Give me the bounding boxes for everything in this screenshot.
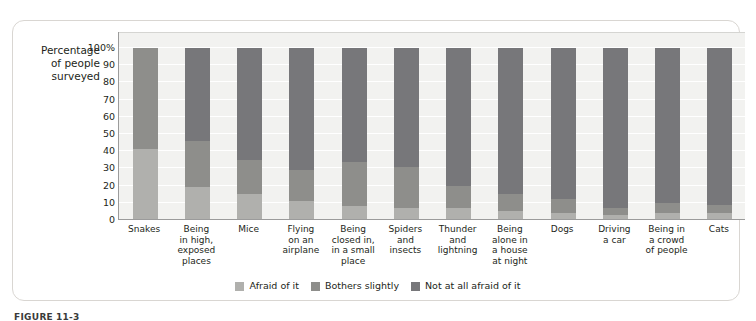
bar-segment	[394, 167, 419, 208]
x-axis-category-labels: SnakesBeingin high,exposedplacesMiceFlyi…	[118, 224, 745, 276]
y-tick-label: 70	[78, 95, 115, 105]
bar-segment	[237, 160, 262, 194]
y-tick-label: 30	[78, 163, 115, 173]
x-category-label-line: at night	[484, 256, 536, 267]
figure-caption: FIGURE 11-3	[14, 312, 80, 321]
bar-segment	[394, 48, 419, 167]
legend-item[interactable]: Afraid of it	[235, 281, 298, 291]
x-category-label: Dogs	[536, 224, 588, 235]
bar-segment	[707, 48, 732, 205]
x-category-label-line: Dogs	[536, 224, 588, 235]
x-category-label: Flyingon anairplane	[275, 224, 327, 256]
x-category-label-line: Spiders	[379, 224, 431, 235]
x-category-label-line: Flying	[275, 224, 327, 235]
bar-segment	[342, 48, 367, 162]
bar-segment	[342, 162, 367, 207]
x-category-label: Snakes	[118, 224, 170, 235]
bar-segment	[655, 48, 680, 203]
y-tick-label: 20	[78, 181, 115, 191]
bar-segment	[498, 194, 523, 211]
y-tick-label: 10	[78, 198, 115, 208]
x-category-label: Beingalone ina houseat night	[484, 224, 536, 266]
bar-segment	[289, 170, 314, 201]
x-category-label-line: Snakes	[118, 224, 170, 235]
x-category-label-line: and	[432, 235, 484, 246]
y-tick-label: 50	[78, 129, 115, 139]
x-category-label-line: a car	[588, 235, 640, 246]
x-category-label-line: Driving	[588, 224, 640, 235]
x-category-label-line: lightning	[432, 245, 484, 256]
bar-segment	[237, 194, 262, 220]
figure-caption-number: 11-3	[56, 312, 80, 321]
bar-segment	[185, 141, 210, 187]
x-category-label-line: places	[170, 256, 222, 267]
y-tick-label: 0	[78, 215, 115, 225]
x-category-label-line: Cats	[693, 224, 745, 235]
legend-item[interactable]: Bothers slightly	[311, 281, 399, 291]
bar-column	[342, 48, 367, 220]
bar-segment	[237, 48, 262, 160]
x-category-label: Beingclosed in,in a smallplace	[327, 224, 379, 266]
x-category-label-line: Being	[484, 224, 536, 235]
x-category-label-line: on an	[275, 235, 327, 246]
bar-segment	[707, 205, 732, 214]
bar-segment	[655, 203, 680, 213]
x-category-label-line: airplane	[275, 245, 327, 256]
bar-segment	[551, 199, 576, 213]
bar-segment	[498, 48, 523, 194]
y-tick-label: 80	[78, 77, 115, 87]
bar-segment	[185, 187, 210, 220]
legend-swatch	[235, 282, 244, 291]
bar-column	[655, 48, 680, 220]
x-category-label-line: Being	[170, 224, 222, 235]
legend-label: Not at all afraid of it	[425, 281, 520, 291]
legend-swatch	[411, 282, 420, 291]
x-category-label-line: Mice	[223, 224, 275, 235]
x-category-label-line: in a small	[327, 245, 379, 256]
bar-column	[707, 48, 732, 220]
plot-area	[118, 32, 745, 220]
bar-segment	[133, 149, 158, 220]
x-category-label-line: place	[327, 256, 379, 267]
y-axis-tick-labels: 0102030405060708090100%	[78, 40, 115, 225]
x-category-label-line: in high,	[170, 235, 222, 246]
bar-segment	[133, 48, 158, 149]
x-axis-line	[119, 219, 745, 220]
x-category-label-line: insects	[379, 245, 431, 256]
bar-segment	[185, 48, 210, 141]
legend-label: Afraid of it	[249, 281, 298, 291]
bar-segment	[342, 206, 367, 220]
bar-column	[603, 48, 628, 220]
y-tick-label: 90	[78, 60, 115, 70]
y-tick-label: 60	[78, 112, 115, 122]
x-category-label: Thunderandlightning	[432, 224, 484, 256]
x-category-label: Mice	[223, 224, 275, 235]
bar-segment	[603, 208, 628, 215]
bar-column	[446, 48, 471, 220]
figure-caption-prefix: FIGURE	[14, 312, 53, 321]
x-category-label-line: Being	[327, 224, 379, 235]
x-category-label-line: closed in,	[327, 235, 379, 246]
legend-label: Bothers slightly	[325, 281, 399, 291]
bar-segment	[551, 48, 576, 199]
y-tick-label: 100%	[78, 43, 115, 53]
bar-column	[289, 48, 314, 220]
x-category-label: Being ina crowdof people	[641, 224, 693, 256]
bar-column	[498, 48, 523, 220]
x-category-label-line: of people	[641, 245, 693, 256]
x-category-label-line: Thunder	[432, 224, 484, 235]
x-category-label: Spidersandinsects	[379, 224, 431, 256]
x-category-label-line: a house	[484, 245, 536, 256]
bar-column	[237, 48, 262, 220]
bar-segment	[446, 186, 471, 208]
bar-segment	[603, 48, 628, 208]
legend-item[interactable]: Not at all afraid of it	[411, 281, 520, 291]
bar-column	[551, 48, 576, 220]
x-category-label: Beingin high,exposedplaces	[170, 224, 222, 266]
x-category-label-line: a crowd	[641, 235, 693, 246]
x-category-label: Drivinga car	[588, 224, 640, 245]
bar-column	[185, 48, 210, 220]
x-category-label-line: alone in	[484, 235, 536, 246]
bar-segment	[289, 48, 314, 170]
chart-legend: Afraid of itBothers slightlyNot at all a…	[0, 279, 756, 293]
